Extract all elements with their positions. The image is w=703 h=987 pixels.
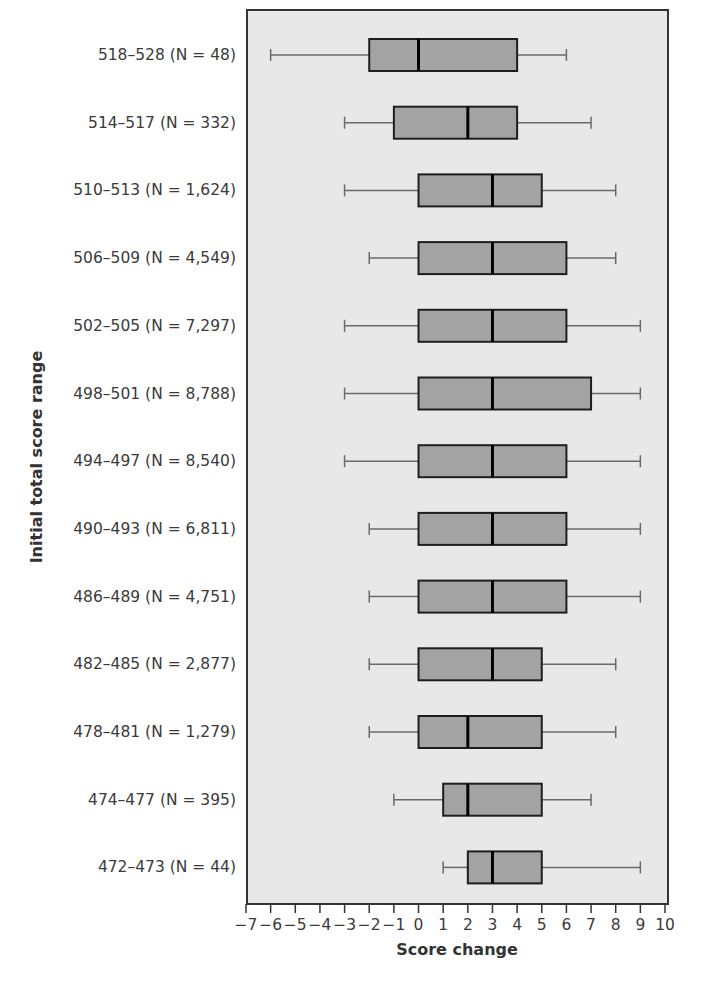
x-tick-label: −5	[284, 916, 307, 934]
category-label: 514–517 (N = 332)	[88, 114, 236, 132]
category-label: 502–505 (N = 7,297)	[73, 317, 236, 335]
x-tick-label: 3	[488, 916, 498, 934]
x-tick-label: −4	[309, 916, 332, 934]
category-label: 474–477 (N = 395)	[88, 791, 236, 809]
x-tick-label: 10	[655, 916, 675, 934]
x-tick-label: −1	[382, 916, 405, 934]
x-tick-label: −3	[333, 916, 356, 934]
x-tick-label: −7	[235, 916, 258, 934]
category-label: 498–501 (N = 8,788)	[73, 385, 236, 403]
iqr-box	[419, 716, 542, 748]
x-tick-label: −2	[358, 916, 381, 934]
y-axis-category-labels: 518–528 (N = 48)514–517 (N = 332)510–513…	[73, 46, 236, 876]
y-axis-title: Initial total score range	[27, 351, 46, 564]
x-tick-label: 7	[586, 916, 596, 934]
x-axis: −7−6−5−4−3−2−1012345678910	[235, 904, 675, 934]
category-label: 486–489 (N = 4,751)	[73, 588, 236, 606]
x-tick-label: 5	[537, 916, 547, 934]
iqr-box	[419, 378, 592, 410]
x-tick-label: 4	[512, 916, 522, 934]
x-tick-label: 0	[414, 916, 424, 934]
iqr-box	[394, 107, 517, 139]
category-label: 506–509 (N = 4,549)	[73, 249, 236, 267]
iqr-box	[419, 648, 542, 680]
category-label: 494–497 (N = 8,540)	[73, 452, 236, 470]
category-label: 510–513 (N = 1,624)	[73, 181, 236, 199]
iqr-box	[369, 39, 517, 71]
iqr-box	[419, 174, 542, 206]
category-label: 518–528 (N = 48)	[98, 46, 236, 64]
category-label: 490–493 (N = 6,811)	[73, 520, 236, 538]
x-tick-label: 2	[463, 916, 473, 934]
x-axis-title: Score change	[396, 940, 518, 959]
x-tick-label: 8	[611, 916, 621, 934]
boxplot-chart: −7−6−5−4−3−2−1012345678910 518–528 (N = …	[0, 0, 703, 987]
category-label: 472–473 (N = 44)	[98, 858, 236, 876]
category-label: 478–481 (N = 1,279)	[73, 723, 236, 741]
x-tick-label: −6	[259, 916, 282, 934]
iqr-box	[468, 851, 542, 883]
x-tick-label: 9	[635, 916, 645, 934]
x-tick-label: 6	[561, 916, 571, 934]
iqr-box	[443, 784, 542, 816]
category-label: 482–485 (N = 2,877)	[73, 655, 236, 673]
x-tick-label: 1	[438, 916, 448, 934]
